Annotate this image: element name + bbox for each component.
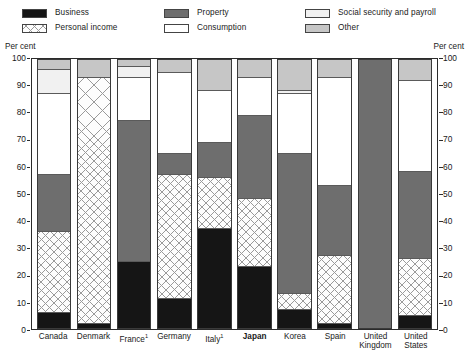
y-tick-mark-right-70	[439, 140, 443, 141]
y-tick-label-right-60: 60	[443, 163, 469, 171]
y-tick-label-left-70: 70	[0, 135, 26, 143]
y-tick-label-right-20: 20	[443, 271, 469, 279]
bar-france[interactable]	[117, 59, 151, 329]
segment-other	[37, 59, 71, 70]
footnote-marker: 1	[145, 333, 148, 339]
y-tick-mark-right-0	[439, 330, 443, 331]
segment-other	[398, 59, 432, 81]
y-axis-right: 0102030405060708090100	[439, 0, 469, 352]
plot-area	[31, 58, 438, 330]
segment-consumption	[157, 73, 191, 154]
segment-business	[37, 313, 71, 329]
y-tick-mark-left-30	[27, 248, 31, 249]
y-tick-mark-left-100	[27, 58, 31, 59]
segment-other	[317, 59, 351, 78]
bar-germany[interactable]	[157, 59, 191, 329]
segment-other	[197, 59, 231, 91]
legend-swatch-consumption-icon	[164, 24, 189, 33]
y-tick-label-right-30: 30	[443, 244, 469, 252]
y-tick-label-right-70: 70	[443, 135, 469, 143]
y-tick-label-left-50: 50	[0, 190, 26, 198]
y-tick-label-left-90: 90	[0, 81, 26, 89]
legend-swatch-other-icon	[305, 24, 330, 33]
x-label-united-kingdom: United Kingdom	[358, 332, 393, 352]
y-tick-mark-right-40	[439, 221, 443, 222]
legend-label-consumption: Consumption	[197, 24, 246, 32]
segment-personal	[77, 78, 111, 324]
segment-consumption	[37, 94, 71, 175]
y-tick-mark-right-60	[439, 167, 443, 168]
legend-column-1: Business Personal income	[22, 6, 117, 36]
segment-other	[277, 59, 311, 91]
segment-other	[117, 59, 151, 67]
bar-italy[interactable]	[197, 59, 231, 329]
legend-item-other: Other	[305, 21, 436, 36]
x-label-united-states: United States	[398, 332, 433, 352]
bar-japan[interactable]	[237, 59, 271, 329]
legend-swatch-property-icon	[164, 9, 189, 18]
x-label-spain: Spain	[318, 332, 353, 352]
segment-business	[237, 267, 271, 329]
segment-social	[37, 70, 71, 94]
segment-business	[197, 229, 231, 329]
y-tick-mark-left-40	[27, 221, 31, 222]
x-label-korea: Korea	[278, 332, 313, 352]
y-tick-label-left-10: 10	[0, 299, 26, 307]
bar-canada[interactable]	[37, 59, 71, 329]
legend-item-consumption: Consumption	[164, 21, 246, 36]
segment-consumption	[317, 78, 351, 186]
segment-personal	[398, 259, 432, 316]
y-tick-label-right-10: 10	[443, 299, 469, 307]
legend-label-personal-income: Personal income	[55, 24, 117, 32]
legend-label-business: Business	[55, 9, 89, 17]
legend-column-3: Social security and payroll Other	[305, 6, 436, 36]
segment-property	[197, 143, 231, 178]
y-tick-label-left-0: 0	[0, 326, 26, 334]
y-tick-label-left-60: 60	[0, 163, 26, 171]
bar-united-states[interactable]	[398, 59, 432, 329]
y-tick-label-right-80: 80	[443, 108, 469, 116]
segment-personal	[197, 178, 231, 229]
x-label-japan: Japan	[237, 332, 272, 352]
y-tick-mark-left-90	[27, 85, 31, 86]
bar-denmark[interactable]	[77, 59, 111, 329]
segment-personal	[317, 256, 351, 324]
bar-united-kingdom[interactable]	[358, 59, 392, 329]
chart-legend: Business Personal income Property Consum…	[0, 6, 469, 40]
footnote-marker: 1	[220, 333, 223, 339]
segment-personal	[157, 175, 191, 299]
segment-business	[398, 316, 432, 330]
legend-item-personal-income: Personal income	[22, 21, 117, 36]
segment-property	[358, 59, 392, 329]
legend-item-business: Business	[22, 6, 117, 21]
y-tick-label-left-80: 80	[0, 108, 26, 116]
segment-business	[77, 324, 111, 329]
segment-property	[117, 121, 151, 261]
segment-property	[237, 116, 271, 200]
y-tick-mark-right-10	[439, 303, 443, 304]
segment-personal	[237, 199, 271, 267]
segment-consumption	[237, 78, 271, 116]
bar-korea[interactable]	[277, 59, 311, 329]
segment-business	[277, 310, 311, 329]
y-tick-mark-left-80	[27, 112, 31, 113]
x-label-canada: Canada	[36, 332, 71, 352]
segment-business	[117, 262, 151, 330]
stacked-bars-group	[32, 59, 437, 329]
y-tick-mark-right-30	[439, 248, 443, 249]
legend-label-social-security: Social security and payroll	[338, 9, 436, 17]
bar-spain[interactable]	[317, 59, 351, 329]
segment-business	[157, 299, 191, 329]
segment-other	[157, 59, 191, 73]
y-axis-left: 0102030405060708090100	[0, 0, 30, 352]
y-tick-label-left-20: 20	[0, 271, 26, 279]
segment-business	[317, 324, 351, 329]
y-tick-mark-right-90	[439, 85, 443, 86]
y-tick-mark-left-60	[27, 167, 31, 168]
segment-property	[157, 154, 191, 176]
legend-column-2: Property Consumption	[164, 6, 246, 36]
segment-property	[37, 175, 71, 232]
y-tick-mark-right-100	[439, 58, 443, 59]
y-tick-label-left-100: 100	[0, 54, 26, 62]
y-tick-mark-left-10	[27, 303, 31, 304]
